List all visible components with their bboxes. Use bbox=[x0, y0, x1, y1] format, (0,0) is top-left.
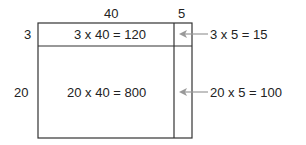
callout-top-right-text: 3 x 5 = 15 bbox=[210, 28, 267, 41]
cell-top-left-text: 3 x 40 = 120 bbox=[74, 28, 146, 41]
cell-bottom-left-text: 20 x 40 = 800 bbox=[67, 86, 146, 99]
height-label-3: 3 bbox=[24, 28, 31, 41]
width-label-40: 40 bbox=[104, 7, 118, 20]
arrow-bottom-right-icon bbox=[179, 88, 208, 96]
area-model-diagram bbox=[0, 0, 306, 145]
height-label-20: 20 bbox=[14, 86, 28, 99]
arrow-top-right-icon bbox=[179, 30, 208, 38]
callout-bottom-right-text: 20 x 5 = 100 bbox=[210, 86, 282, 99]
width-label-5: 5 bbox=[178, 7, 185, 20]
